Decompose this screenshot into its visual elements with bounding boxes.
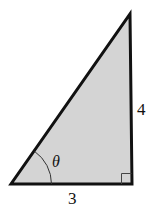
right-triangle-diagram: θ 3 4 [0, 0, 154, 208]
triangle [11, 14, 132, 184]
base-label: 3 [68, 189, 77, 208]
angle-label: θ [52, 153, 60, 170]
height-label: 4 [137, 100, 146, 119]
